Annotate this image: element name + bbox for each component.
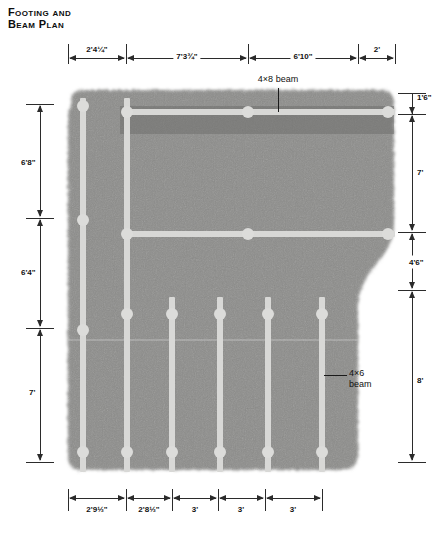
beam-callout-4x8-text: 4×8 beam	[258, 74, 298, 84]
dim-arrow	[118, 495, 125, 501]
dim-line	[40, 220, 41, 326]
beam-callout-4x6-leader	[324, 375, 347, 376]
dim-arrow	[409, 291, 415, 298]
dim-tick	[398, 462, 426, 463]
dim-label-top-1: 2'4¼"	[86, 45, 107, 54]
dim-line	[70, 498, 124, 499]
concrete-slab	[60, 84, 402, 478]
footing-pad	[77, 324, 89, 336]
footing-pad	[77, 214, 89, 226]
dim-label-left-1: 6'8"	[21, 156, 36, 169]
dim-tick	[395, 44, 396, 64]
dim-label-right-4: 8'	[417, 374, 423, 387]
dim-arrow	[409, 282, 415, 289]
dim-arrow	[37, 105, 43, 112]
dim-label-left-2: 6'4"	[21, 266, 36, 279]
footing-pad	[262, 446, 274, 458]
dim-arrow	[257, 495, 264, 501]
dim-tick	[126, 44, 127, 64]
dim-line	[40, 330, 41, 460]
dim-tick	[358, 44, 359, 64]
dim-arrow	[210, 495, 217, 501]
dim-arrow	[249, 55, 256, 61]
dim-arrow	[37, 329, 43, 336]
footing-pad	[242, 228, 254, 240]
footing-pad	[382, 106, 394, 118]
dim-arrow	[409, 233, 415, 240]
footing-pad	[77, 100, 89, 112]
footing-pad	[77, 446, 89, 458]
beam-callout-4x8-leader	[278, 88, 279, 112]
dim-label-top-4: 2'	[374, 45, 380, 54]
dim-line	[267, 498, 320, 499]
dim-tick	[68, 44, 69, 64]
dim-label-bottom-3: 3'	[192, 505, 198, 514]
beam-callout-4x6-text: 4×6	[349, 368, 372, 379]
dim-arrow	[409, 224, 415, 231]
page-title: Footing and Beam Plan	[8, 6, 208, 30]
beam-vertical-left	[80, 98, 86, 472]
dim-arrow	[37, 219, 43, 226]
dim-arrow	[164, 495, 171, 501]
footing-pad	[262, 308, 274, 320]
dim-label-bottom-5: 3'	[290, 505, 296, 514]
footing-pad	[242, 106, 254, 118]
dim-label-right-2: 7'	[417, 166, 423, 179]
dim-arrow	[350, 55, 357, 61]
beam-callout-4x8-label: 4×8 beam	[258, 74, 298, 85]
dim-label-bottom-1: 2'9½"	[86, 505, 107, 514]
dim-arrow	[359, 55, 366, 61]
beam-callout-4x6-text2: beam	[349, 379, 372, 390]
dim-line	[70, 58, 124, 59]
beam-vertical-second	[124, 98, 130, 472]
page-title-line2: Beam Plan	[8, 18, 208, 30]
dim-label-bottom-4: 3'	[238, 505, 244, 514]
footing-pad	[382, 228, 394, 240]
dim-label-right-3: 4'6"	[409, 256, 424, 269]
dim-arrow	[127, 495, 134, 501]
dim-arrow	[37, 454, 43, 461]
dim-label-right-1: 1'6"	[417, 93, 432, 102]
footing-pad	[316, 446, 328, 458]
dim-arrow	[69, 495, 76, 501]
dim-arrow	[409, 115, 415, 122]
dim-label-bottom-2: 2'8½"	[138, 505, 159, 514]
dim-arrow	[409, 107, 415, 114]
dim-arrow	[37, 320, 43, 327]
beam-horizontal-middle	[124, 231, 395, 237]
footing-pad	[121, 106, 133, 118]
beam-horizontal-top	[124, 109, 395, 115]
dim-arrow	[118, 55, 125, 61]
dim-tick	[248, 44, 249, 64]
dim-arrow	[266, 495, 273, 501]
footing-pad	[166, 308, 178, 320]
dim-arrow	[173, 495, 180, 501]
footing-beam-plan-drawing: Footing and Beam Plan	[0, 0, 444, 540]
dim-tick	[322, 489, 323, 511]
dim-arrow	[69, 55, 76, 61]
dim-arrow	[409, 454, 415, 461]
dim-arrow	[240, 55, 247, 61]
beam-callout-4x6-label: 4×6 beam	[349, 368, 372, 390]
dim-arrow	[219, 495, 226, 501]
dim-tick	[26, 462, 54, 463]
dim-line	[412, 292, 413, 460]
page-title-line1: Footing and	[8, 6, 208, 18]
dim-arrow	[314, 495, 321, 501]
footing-pad	[214, 446, 226, 458]
slab-shape	[60, 84, 402, 478]
dim-line	[40, 106, 41, 216]
dim-arrow	[127, 55, 134, 61]
dim-line	[412, 116, 413, 230]
dim-arrow	[387, 55, 394, 61]
footing-pad	[316, 308, 328, 320]
dim-arrow	[37, 210, 43, 217]
footing-pad	[121, 446, 133, 458]
footing-pad	[121, 308, 133, 320]
footing-pad	[214, 308, 226, 320]
dim-label-top-2: 7'3¾"	[173, 52, 200, 61]
dim-label-left-3: 7'	[29, 386, 35, 399]
footing-pad	[121, 228, 133, 240]
footing-pad	[166, 446, 178, 458]
dim-label-top-3: 6'10"	[290, 52, 315, 61]
